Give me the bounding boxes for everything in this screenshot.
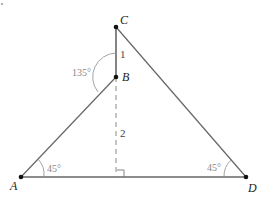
angle-arc-D <box>224 160 231 177</box>
point-B <box>114 75 119 80</box>
label-B: B <box>122 70 130 84</box>
label-A: A <box>9 179 18 193</box>
angle-arc-B <box>93 53 116 92</box>
segment-AB <box>21 77 116 177</box>
angle-label-A: 45° <box>47 163 61 174</box>
angle-label-B: 135° <box>72 67 91 78</box>
angle-label-D: 45° <box>207 162 221 173</box>
label-C: C <box>120 13 129 27</box>
point-D <box>244 175 249 180</box>
segment-CD <box>116 27 246 177</box>
geometry-diagram: A B C D 1 2 45° 45° 135° <box>0 0 263 198</box>
point-C <box>114 25 119 30</box>
right-angle-mark <box>117 170 124 177</box>
length-CB: 1 <box>120 48 126 60</box>
length-B-foot: 2 <box>120 127 126 139</box>
point-A <box>19 175 24 180</box>
label-D: D <box>247 181 257 195</box>
stray-mark <box>1 3 3 5</box>
angle-arc-A <box>38 159 44 177</box>
